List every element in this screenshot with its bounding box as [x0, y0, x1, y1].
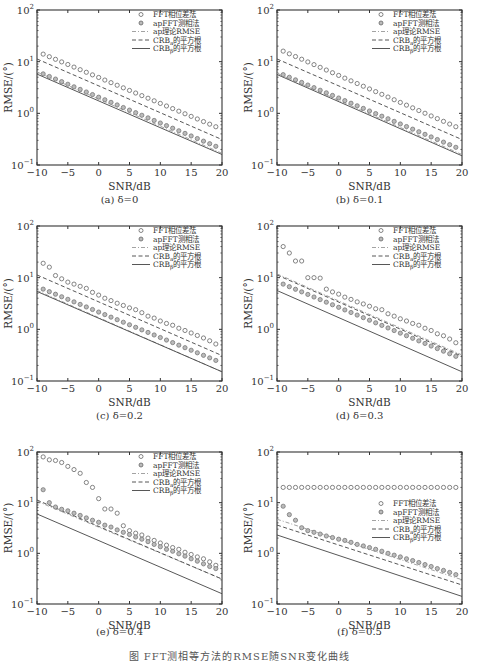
data-marker	[392, 328, 396, 332]
series-line	[277, 274, 462, 355]
y-tick-label: 101	[17, 271, 34, 284]
data-marker	[115, 528, 119, 532]
x-tick-label: 20	[456, 383, 469, 394]
x-tick-label: 0	[335, 167, 341, 178]
data-marker	[337, 96, 341, 100]
data-marker	[183, 328, 187, 332]
x-tick-label: 5	[366, 383, 372, 394]
data-marker	[324, 485, 328, 489]
legend-label: CRBβ的平方根	[393, 43, 442, 55]
data-marker	[208, 122, 212, 126]
data-marker	[324, 68, 328, 72]
data-marker	[60, 277, 64, 281]
data-marker	[281, 73, 285, 77]
data-marker	[134, 111, 138, 115]
legend-label: ap理论RMSE	[393, 242, 440, 252]
legend-label: CRBβ的平方根	[153, 259, 202, 271]
y-tick-label: 101	[257, 271, 274, 284]
x-axis-label: SNR/dB	[108, 180, 151, 192]
data-marker	[195, 136, 199, 140]
data-marker	[72, 511, 76, 515]
series-line	[277, 275, 462, 356]
data-marker	[140, 533, 144, 537]
data-marker	[90, 518, 94, 522]
data-marker	[66, 464, 70, 468]
data-marker	[306, 485, 310, 489]
x-axis-label: SNR/dB	[108, 396, 151, 408]
x-tick-label: 20	[216, 383, 229, 394]
data-marker	[121, 320, 125, 324]
data-marker	[300, 290, 304, 294]
data-marker	[343, 485, 347, 489]
data-marker	[343, 538, 347, 542]
x-tick-label: 10	[154, 383, 167, 394]
data-marker	[454, 354, 458, 358]
data-marker	[312, 485, 316, 489]
data-marker	[454, 341, 458, 345]
data-marker	[78, 471, 82, 475]
data-marker	[127, 108, 131, 112]
data-marker	[60, 60, 64, 64]
data-marker	[152, 542, 156, 546]
figure-caption: 图 FFT测相等方法的RMSE随SNR变化曲线	[0, 648, 479, 663]
panel-e: −10−50510152010−1100101102SNR/dBRMSE/(°)…	[0, 442, 239, 657]
x-tick-label: −10	[266, 606, 287, 617]
x-tick-label: 0	[95, 167, 101, 178]
data-marker	[306, 83, 310, 87]
data-marker	[386, 312, 390, 316]
data-marker	[300, 57, 304, 61]
data-marker	[287, 251, 291, 255]
data-marker	[312, 530, 316, 534]
data-marker	[109, 315, 113, 319]
legend-label: FFT相位差法	[393, 498, 437, 508]
data-marker	[337, 73, 341, 77]
data-marker	[214, 144, 218, 148]
data-marker	[306, 529, 310, 533]
data-marker	[78, 284, 82, 288]
x-tick-label: 5	[126, 167, 132, 178]
data-marker	[318, 297, 322, 301]
data-marker	[121, 86, 125, 90]
data-marker	[435, 117, 439, 121]
data-marker	[318, 65, 322, 69]
legend-label: ap理论RMSE	[153, 26, 200, 36]
y-tick-label: 100	[257, 106, 274, 119]
data-marker	[47, 265, 51, 269]
legend-label: ap理论RMSE	[393, 26, 440, 36]
data-marker	[367, 318, 371, 322]
data-marker	[441, 334, 445, 338]
data-marker	[146, 116, 150, 120]
data-marker	[429, 135, 433, 139]
data-marker	[417, 560, 421, 564]
data-marker	[300, 485, 304, 489]
data-marker	[158, 319, 162, 323]
data-marker	[411, 106, 415, 110]
data-marker	[177, 547, 181, 551]
data-marker	[441, 568, 445, 572]
data-marker	[103, 523, 107, 527]
data-marker	[66, 297, 70, 301]
data-marker	[41, 455, 45, 459]
data-marker	[201, 353, 205, 357]
data-marker	[127, 323, 131, 327]
data-marker	[330, 71, 334, 75]
data-marker	[361, 544, 365, 548]
data-marker	[337, 485, 341, 489]
data-marker	[66, 82, 70, 86]
data-marker	[109, 81, 113, 85]
data-marker	[361, 316, 365, 320]
data-marker	[146, 96, 150, 100]
data-marker	[164, 124, 168, 128]
data-marker	[78, 68, 82, 72]
data-marker	[441, 140, 445, 144]
data-marker	[300, 80, 304, 84]
data-marker	[53, 273, 57, 277]
y-tick-label: 102	[257, 219, 274, 232]
data-marker	[287, 485, 291, 489]
data-marker	[392, 314, 396, 318]
data-marker	[164, 547, 168, 551]
data-marker	[411, 321, 415, 325]
x-tick-label: 20	[456, 606, 469, 617]
legend-label: apFFT测相法	[393, 234, 440, 244]
data-marker	[66, 62, 70, 66]
